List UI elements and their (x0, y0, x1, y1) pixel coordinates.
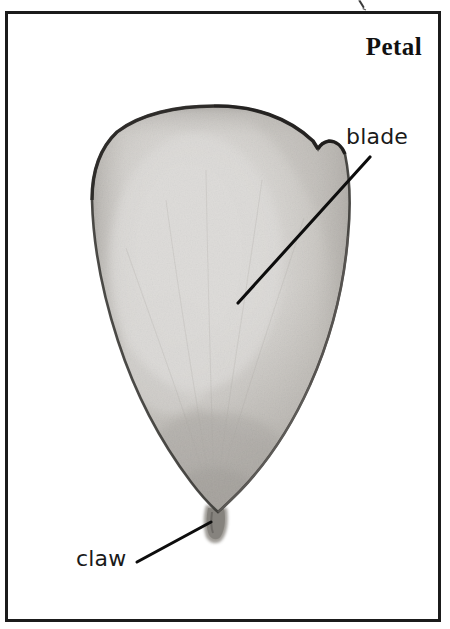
petal-blade-body (80, 96, 370, 528)
petal-drawing (0, 0, 450, 629)
leader-line-claw (137, 522, 211, 562)
plate-content: Petal blade claw (0, 0, 450, 629)
plate-title: Petal (250, 33, 422, 61)
label-blade: blade (346, 124, 408, 149)
label-claw: claw (76, 546, 126, 571)
figure-root: Petal blade claw (0, 0, 450, 629)
